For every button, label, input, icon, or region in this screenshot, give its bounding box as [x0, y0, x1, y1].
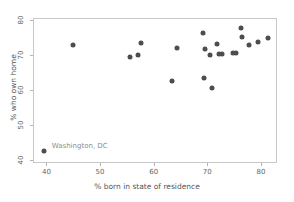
- x-tick-mark: [46, 163, 47, 166]
- x-tick-mark: [207, 163, 208, 166]
- x-tick-label: 40: [42, 168, 51, 176]
- data-point: [266, 35, 271, 40]
- x-tick-label: 60: [149, 168, 158, 176]
- x-tick-label: 80: [256, 168, 265, 176]
- y-tick-label: 80: [17, 15, 25, 24]
- data-point: [239, 26, 244, 31]
- data-point: [41, 148, 46, 153]
- data-point: [70, 43, 75, 48]
- y-tick-mark: [30, 55, 33, 56]
- data-point: [209, 85, 214, 90]
- x-tick-label: 50: [96, 168, 105, 176]
- y-tick-mark: [30, 160, 33, 161]
- y-tick-label: 70: [17, 50, 25, 59]
- y-tick-label: 40: [17, 155, 25, 164]
- y-tick-mark: [30, 125, 33, 126]
- data-point: [214, 41, 219, 46]
- y-axis-label: % who own home: [9, 33, 18, 143]
- x-axis-label: % born in state of residence: [0, 182, 294, 191]
- data-point: [255, 39, 260, 44]
- data-point: [170, 79, 175, 84]
- x-tick-mark: [100, 163, 101, 166]
- data-point: [247, 43, 252, 48]
- data-point: [135, 53, 140, 58]
- scatter-chart: 4050607080 4050607080 Washington, DC % b…: [0, 0, 294, 202]
- x-tick-mark: [154, 163, 155, 166]
- data-point: [128, 55, 133, 60]
- data-point: [207, 53, 212, 58]
- point-annotation-label: Washington, DC: [52, 142, 108, 150]
- y-tick-mark: [30, 90, 33, 91]
- data-point: [202, 47, 207, 52]
- x-tick-mark: [261, 163, 262, 166]
- y-tick-label: 50: [17, 120, 25, 129]
- data-point: [200, 31, 205, 36]
- data-point: [139, 40, 144, 45]
- y-tick-mark: [30, 20, 33, 21]
- data-point: [220, 51, 225, 56]
- y-tick-label: 60: [17, 85, 25, 94]
- data-point: [239, 35, 244, 40]
- data-point: [174, 46, 179, 51]
- data-point: [201, 76, 206, 81]
- data-point: [234, 50, 239, 55]
- x-tick-label: 70: [203, 168, 212, 176]
